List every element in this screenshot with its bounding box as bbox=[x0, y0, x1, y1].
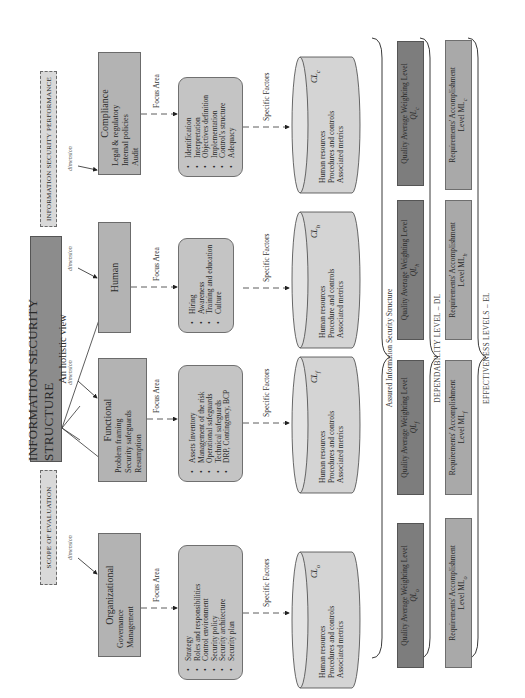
subtitle-text: An holistic view bbox=[57, 314, 68, 383]
focus-box-organizational: Strategy Roles and responsibilities Cont… bbox=[178, 545, 243, 680]
page-title: INFORMATION SECURITY STRUCTURE An holist… bbox=[30, 236, 62, 462]
dependability-level-label: DEPENDABILITY LEVEL – DL bbox=[433, 228, 442, 468]
quality-level-compliance: Quality Average Weighting Level QLc bbox=[397, 41, 424, 186]
focus-box-human: Hiring Awareness Training and education … bbox=[178, 238, 234, 333]
focus-area-label-2: Focus Area bbox=[152, 379, 161, 413]
cl-organizational: CLo bbox=[310, 565, 321, 578]
diagram-canvas: SCOPE OF EVALUATION INFORMATION SECURITY… bbox=[0, 0, 525, 698]
dimension-label-3: dimension bbox=[67, 246, 73, 271]
dimension-organizational: Organizational Governance Management bbox=[98, 533, 141, 657]
specific-factors-label-3: Specific Factors bbox=[262, 233, 271, 282]
dimension-compliance: Compliance Legal & regulatory Internal p… bbox=[98, 52, 141, 175]
factors-functional: Human resources Procedures and controls … bbox=[318, 363, 345, 483]
focus-area-label-1: Focus Area bbox=[152, 568, 161, 602]
focus-box-compliance: Identification Interpretation Objectives… bbox=[178, 77, 243, 177]
cl-functional: CLf bbox=[310, 371, 321, 383]
dimension-label-4: dimension bbox=[67, 146, 73, 171]
dimension-label-1: dimension bbox=[67, 535, 73, 560]
dimension-functional: Functional Problem framing Security safe… bbox=[98, 358, 147, 482]
requirement-level-compliance: Requirements' Accomplishment Level MLc bbox=[445, 40, 472, 190]
quality-level-human: Quality Average Weighting Level QLh bbox=[397, 200, 424, 340]
quality-level-organizational: Quality Average Weighting Level QLo bbox=[397, 523, 424, 668]
quality-level-functional: Quality Average Weighting Level QLf bbox=[397, 360, 424, 495]
dimension-label-2: dimension bbox=[67, 360, 73, 385]
requirement-level-functional: Requirements' Accomplishment Level MLf bbox=[445, 360, 472, 495]
cl-compliance: CLc bbox=[310, 70, 321, 83]
effectiveness-level-label: EFFECTIVENESS LEVELS – EL bbox=[482, 228, 491, 468]
requirement-level-human: Requirements' Accomplishment Level MLh bbox=[445, 200, 472, 340]
factors-organizational: Human resources Procedures and controls … bbox=[318, 558, 345, 678]
focus-box-functional: Assets Inventory Management of the risk … bbox=[178, 365, 243, 482]
security-performance-label: INFORMATION SECURITY PERFORMANCE bbox=[40, 71, 57, 227]
factors-human: Human resources Procedure and controls A… bbox=[318, 218, 345, 338]
requirement-level-organizational: Requirements' Accomplishment Level MLo bbox=[445, 518, 472, 668]
specific-factors-label-4: Specific Factors bbox=[262, 72, 271, 121]
specific-factors-label-1: Specific Factors bbox=[262, 558, 271, 607]
assured-structure-label: Assured Information Security Structure bbox=[385, 228, 394, 468]
cl-human: CLh bbox=[310, 225, 321, 238]
specific-factors-label-2: Specific Factors bbox=[262, 368, 271, 417]
focus-area-label-4: Focus Area bbox=[152, 74, 161, 108]
scope-of-evaluation-label: SCOPE OF EVALUATION bbox=[40, 470, 57, 585]
dimension-human: Human bbox=[98, 222, 131, 333]
focus-area-label-3: Focus Area bbox=[152, 247, 161, 281]
factors-compliance: Human resources Procedures and controls … bbox=[318, 63, 345, 183]
title-text: INFORMATION SECURITY STRUCTURE bbox=[25, 237, 57, 461]
